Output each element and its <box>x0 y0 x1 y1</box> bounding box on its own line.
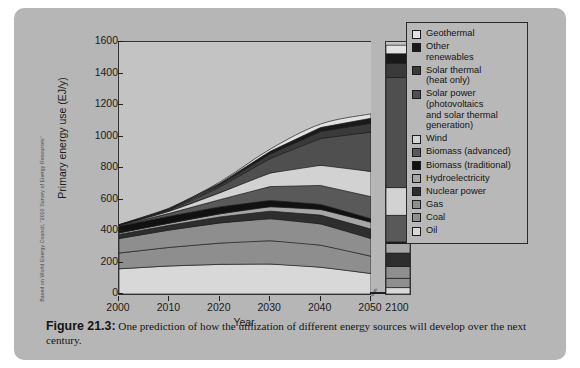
caption-text: One prediction of how the utilization of… <box>46 320 526 346</box>
x-tick-label: 2010 <box>146 301 190 313</box>
legend-label: Biomass (traditional) <box>426 160 511 171</box>
legend-swatch-icon <box>412 43 421 52</box>
y-tick-mark <box>118 262 123 263</box>
column-band <box>386 278 410 287</box>
y-tick-label: 600 <box>84 193 118 204</box>
x-tick-label: 2040 <box>298 301 342 313</box>
y-tick-label: 400 <box>84 224 118 235</box>
legend-swatch-icon <box>412 66 421 75</box>
legend-label: Geothermal <box>426 28 475 39</box>
y-tick-label: 1600 <box>84 35 118 46</box>
legend-swatch-icon <box>412 187 421 196</box>
y-tick-mark <box>118 293 123 294</box>
legend-swatch-icon <box>412 213 421 222</box>
y-tick-mark <box>118 199 123 200</box>
legend-label: Hydroelectricity <box>426 173 490 184</box>
column-band <box>386 288 410 294</box>
legend-label: Other renewables <box>426 41 474 62</box>
y-axis-label: Primary energy use (EJ/y) <box>56 48 68 228</box>
y-tick-label: 1200 <box>84 98 118 109</box>
column-band <box>386 266 410 278</box>
y-tick-mark <box>118 41 123 42</box>
legend-swatch-icon <box>412 200 421 209</box>
legend-swatch-icon <box>412 30 421 39</box>
chart-legend: GeothermalOther renewablesSolar thermal … <box>406 22 528 244</box>
legend-label: Oil <box>426 225 437 236</box>
legend-item-2[interactable]: Solar thermal (heat only) <box>412 65 523 86</box>
plot-area <box>118 41 371 295</box>
legend-swatch-icon <box>412 227 421 236</box>
y-tick-mark <box>118 104 123 105</box>
legend-item-4[interactable]: Wind <box>412 133 523 144</box>
legend-item-5[interactable]: Biomass (advanced) <box>412 146 523 157</box>
legend-label: Nuclear power <box>426 186 486 197</box>
x-tick-label-2100: 2100 <box>375 301 419 313</box>
figure-card: Based on World Energy Council, "2010 Sur… <box>14 8 566 360</box>
x-tick-label: 2000 <box>96 301 140 313</box>
y-axis-tick-labels: 02004006008001000120014001600 <box>78 20 118 308</box>
y-tick-label: 0 <box>84 287 118 298</box>
y-tick-label: 200 <box>84 256 118 267</box>
legend-item-7[interactable]: Hydroelectricity <box>412 173 523 184</box>
legend-item-6[interactable]: Biomass (traditional) <box>412 160 523 171</box>
legend-item-9[interactable]: Gas <box>412 199 523 210</box>
column-band <box>386 253 410 266</box>
y-tick-mark <box>118 73 123 74</box>
legend-label: Solar power (photovoltaics and solar the… <box>426 88 498 130</box>
column-band <box>386 244 410 253</box>
legend-item-1[interactable]: Other renewables <box>412 41 523 62</box>
figure-number: Figure 21.3: <box>46 319 116 333</box>
legend-swatch-icon <box>412 161 421 170</box>
x-tick-label: 2030 <box>247 301 291 313</box>
legend-label: Coal <box>426 212 445 223</box>
y-tick-mark <box>118 230 123 231</box>
figure-caption: Figure 21.3: One prediction of how the u… <box>46 320 546 347</box>
legend-item-10[interactable]: Coal <box>412 212 523 223</box>
legend-item-11[interactable]: Oil <box>412 225 523 236</box>
x-tick-label: 2020 <box>197 301 241 313</box>
y-tick-mark <box>118 136 123 137</box>
legend-label: Wind <box>426 133 447 144</box>
y-tick-label: 1400 <box>84 67 118 78</box>
legend-swatch-icon <box>412 148 421 157</box>
y-tick-mark <box>118 167 123 168</box>
legend-label: Solar thermal (heat only) <box>426 65 481 86</box>
legend-item-3[interactable]: Solar power (photovoltaics and solar the… <box>412 88 523 130</box>
legend-label: Biomass (advanced) <box>426 146 511 157</box>
legend-label: Gas <box>426 199 443 210</box>
y-tick-label: 800 <box>84 161 118 172</box>
legend-swatch-icon <box>412 174 421 183</box>
legend-swatch-icon <box>412 90 421 99</box>
legend-item-0[interactable]: Geothermal <box>412 28 523 39</box>
legend-swatch-icon <box>412 135 421 144</box>
y-tick-label: 1000 <box>84 130 118 141</box>
legend-item-8[interactable]: Nuclear power <box>412 186 523 197</box>
